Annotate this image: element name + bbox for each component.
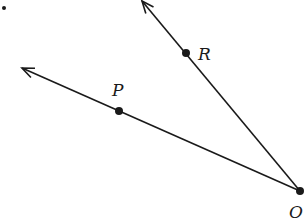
point-r: [182, 49, 190, 57]
label-r: R: [197, 44, 211, 64]
point-o: [296, 187, 304, 195]
ray-op-line: [22, 68, 300, 191]
geometry-diagram: O P R: [0, 0, 308, 221]
label-o: O: [289, 202, 303, 221]
stray-dot: [2, 6, 6, 10]
diagram-canvas: O P R: [0, 0, 308, 221]
ray-or-line: [142, 1, 300, 191]
label-p: P: [111, 80, 124, 100]
point-p: [115, 107, 123, 115]
